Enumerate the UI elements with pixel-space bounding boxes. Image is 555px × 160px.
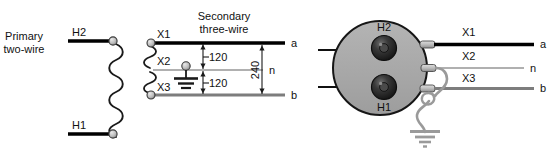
secondary-label-a: a xyxy=(291,37,298,49)
primary-h2-node xyxy=(109,37,117,45)
dimension-lower-120: 120 xyxy=(200,71,227,94)
pictorial-x3-label: X3 xyxy=(462,72,475,84)
primary-h1-node xyxy=(109,130,117,138)
secondary-x1-node xyxy=(147,39,155,47)
dim-240-label: 240 xyxy=(249,61,261,79)
secondary-caption-line2: three-wire xyxy=(200,23,249,35)
terminal-lug-x3 xyxy=(420,85,435,92)
diagram-canvas: H2 H1 Primary two-wire Secondary three-w… xyxy=(0,0,555,160)
ground-wire-upper xyxy=(435,68,447,96)
neutral-ground-node xyxy=(182,62,190,70)
terminal-lug-x1 xyxy=(420,41,435,48)
pictorial-x1-label: X1 xyxy=(462,26,475,38)
bushing-h2 xyxy=(372,36,397,61)
primary-coil xyxy=(109,44,123,137)
pictorial-ground-symbol xyxy=(410,132,440,147)
bushing-h2-highlight xyxy=(379,43,382,46)
dim-240-arrow-top xyxy=(259,46,264,51)
pictorial-transformer: H2 H1 X1 X2 X3 xyxy=(318,21,547,147)
dim-upper-120-label: 120 xyxy=(209,51,227,63)
pictorial-label-b: b xyxy=(540,82,546,94)
dimension-upper-120: 120 xyxy=(200,44,227,69)
dim-upper-arrow-bottom xyxy=(200,64,205,69)
dim-lower-120-label: 120 xyxy=(209,77,227,89)
secondary-label-n: n xyxy=(269,64,275,76)
dim-lower-arrow-bottom xyxy=(200,89,205,94)
dimension-240: 240 xyxy=(249,45,265,94)
dim-lower-arrow-top xyxy=(200,72,205,77)
secondary-caption-line1: Secondary xyxy=(198,10,251,22)
pictorial-label-n: n xyxy=(530,62,536,74)
transformer-diagram: H2 H1 Primary two-wire Secondary three-w… xyxy=(0,0,555,160)
bushing-h1 xyxy=(372,75,397,100)
dim-240-arrow-bottom xyxy=(259,89,264,94)
pictorial-label-a: a xyxy=(540,38,547,50)
primary-schematic: H2 H1 Primary two-wire xyxy=(4,26,123,138)
pictorial-h2-label: H2 xyxy=(377,21,391,33)
dim-upper-arrow-top xyxy=(200,45,205,50)
bushing-h1-highlight xyxy=(379,82,382,85)
secondary-x1-label: X1 xyxy=(157,28,170,40)
ground-wire-lower xyxy=(417,101,429,132)
secondary-coil-lower xyxy=(144,72,156,93)
pictorial-h1-label: H1 xyxy=(377,101,391,113)
pictorial-x2-label: X2 xyxy=(462,50,475,62)
primary-caption-line1: Primary xyxy=(5,30,43,42)
secondary-ground-symbol xyxy=(174,62,198,88)
secondary-schematic: Secondary three-wire X1 X2 X3 xyxy=(144,10,298,101)
secondary-x3-node xyxy=(147,91,155,99)
secondary-label-b: b xyxy=(291,89,297,101)
secondary-x3-label: X3 xyxy=(157,81,170,93)
secondary-x2-label: X2 xyxy=(157,55,170,67)
primary-caption-line2: two-wire xyxy=(4,43,45,55)
primary-h1-label: H1 xyxy=(72,119,86,131)
secondary-coil-upper xyxy=(144,46,156,68)
terminal-lug-x2 xyxy=(421,65,436,72)
primary-h2-label: H2 xyxy=(72,26,86,38)
